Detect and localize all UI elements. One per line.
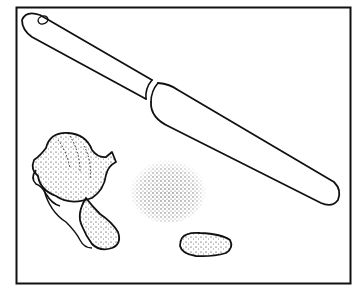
garlic-clove-attached [80, 198, 119, 249]
knife-handle [22, 13, 152, 99]
line-art [0, 0, 359, 294]
knife-bolster [146, 80, 158, 102]
peeled-clove [180, 233, 231, 256]
garlic-bulb [33, 133, 119, 249]
illustration [0, 0, 359, 294]
crushed-garlic-pile [129, 156, 207, 224]
